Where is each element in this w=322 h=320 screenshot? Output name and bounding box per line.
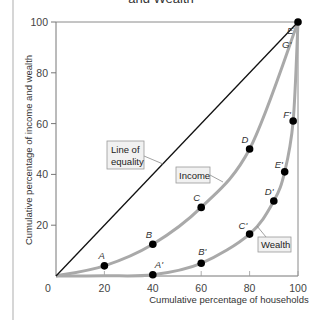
y-axis-title: Cumulative percentage of income and weal… — [23, 55, 34, 245]
data-point — [246, 230, 254, 238]
data-point — [149, 240, 157, 248]
x-tick-label: 80 — [244, 282, 256, 294]
x-tick-label: 60 — [195, 282, 207, 294]
point-label: C — [193, 192, 200, 203]
income-label: Income — [179, 170, 210, 181]
x-tick-label: 0 — [45, 282, 51, 294]
point-label-g-prime: G' — [282, 39, 292, 50]
income-leader-line — [210, 175, 223, 182]
x-tick-label: 100 — [289, 282, 307, 294]
y-tick-label: 100 — [30, 16, 48, 28]
y-axis-ticks: 20406080100 — [30, 16, 56, 231]
data-point — [270, 197, 278, 205]
y-tick-label: 40 — [36, 168, 48, 180]
point-label: C' — [239, 220, 249, 231]
point-label-e: E — [287, 25, 294, 36]
point-label: D' — [265, 186, 275, 197]
equality-label-line2: equality — [111, 156, 144, 167]
point-label: E' — [275, 159, 284, 170]
point-label: D — [242, 134, 249, 145]
x-tick-label: 40 — [147, 282, 159, 294]
point-label: F' — [283, 109, 292, 120]
data-point — [246, 145, 254, 153]
equality-leader-line — [144, 156, 163, 164]
y-tick-label: 60 — [36, 118, 48, 130]
point-label: B' — [198, 246, 207, 257]
data-point — [101, 262, 109, 270]
y-tick-label: 20 — [36, 219, 48, 231]
data-point — [149, 271, 157, 279]
point-label: A — [97, 250, 104, 261]
wealth-leader-line — [257, 226, 266, 237]
wealth-label: Wealth — [261, 239, 290, 250]
lorenz-curve-chart: 20406080100 020406080100 Cumulative perc… — [0, 0, 322, 320]
data-point-e — [294, 18, 302, 26]
data-point — [197, 204, 205, 212]
equality-label-line1: Line of — [111, 144, 140, 155]
y-tick-label: 80 — [36, 67, 48, 79]
x-tick-label: 20 — [99, 282, 111, 294]
point-label: A' — [154, 259, 164, 270]
point-label: B — [146, 229, 153, 240]
data-point — [197, 260, 205, 268]
x-axis-title: Cumulative percentage of households — [149, 294, 309, 305]
